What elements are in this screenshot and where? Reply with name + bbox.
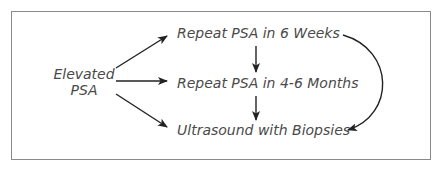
arrows-layer — [0, 0, 442, 169]
arrow-elevated-to-ultrasound — [116, 94, 167, 127]
arrow-elevated-to-repeat-6-weeks — [116, 36, 167, 68]
curved-arrow-repeat-6-weeks-to-ultrasound — [343, 35, 383, 130]
